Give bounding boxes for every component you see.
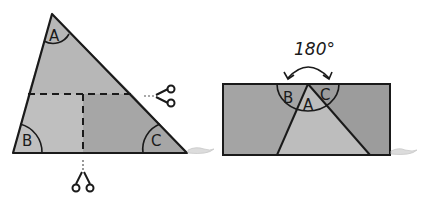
right-rectangle-figure: B A C 180°	[223, 39, 417, 155]
angle-sum-diagram: A B C B A C 180°	[0, 0, 428, 205]
angle-a-label: A	[49, 27, 60, 45]
smudge-mark	[391, 149, 417, 155]
smudge-mark	[188, 148, 214, 154]
scissors-icon	[73, 160, 94, 192]
angle-a-label-right: A	[303, 96, 314, 114]
angle-c-label-right: C	[320, 86, 330, 104]
angle-b-label-right: B	[283, 89, 293, 107]
double-arrow-icon	[288, 67, 329, 78]
angle-c-label: C	[151, 132, 161, 150]
angle-b-label: B	[22, 132, 32, 150]
left-triangle-figure: A B C	[13, 14, 214, 154]
triangle-right-piece	[83, 94, 187, 153]
triangle-top-piece	[28, 14, 132, 94]
scissors-icon	[144, 86, 175, 107]
sum-180-label: 180°	[294, 39, 335, 59]
